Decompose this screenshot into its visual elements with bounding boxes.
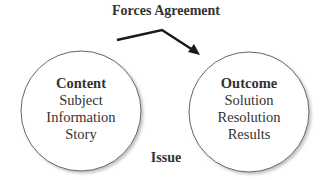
content-heading: Content xyxy=(21,75,141,92)
content-item: Subject xyxy=(21,92,141,109)
outcome-heading: Outcome xyxy=(189,75,309,92)
issue-label: Issue xyxy=(0,150,332,166)
outcome-item: Solution xyxy=(189,92,309,109)
outcome-node: Outcome Solution Resolution Results xyxy=(189,75,309,143)
arrow-icon xyxy=(117,30,200,55)
content-item: Story xyxy=(21,126,141,143)
outcome-item: Resolution xyxy=(189,109,309,126)
content-node: Content Subject Information Story xyxy=(21,75,141,143)
outcome-item: Results xyxy=(189,126,309,143)
content-item: Information xyxy=(21,109,141,126)
